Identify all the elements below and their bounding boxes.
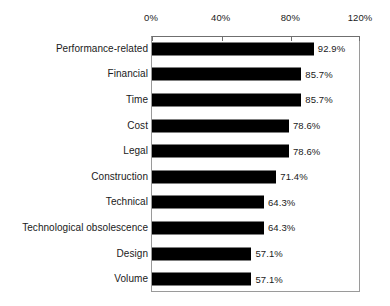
x-axis-tick-label: 80% [281, 12, 300, 24]
bar [152, 247, 251, 260]
bar [152, 93, 301, 106]
bar-value-label: 78.6% [293, 145, 320, 157]
category-label: Cost [0, 120, 148, 132]
x-axis-tick-label: 40% [211, 12, 230, 24]
x-axis-tick-label: 0% [144, 12, 158, 24]
bar-row: Construction71.4% [0, 164, 390, 190]
category-label: Financial [0, 68, 148, 80]
bar-value-label: 64.3% [268, 196, 295, 208]
category-label: Design [0, 248, 148, 260]
category-label: Volume [0, 273, 148, 285]
bar-row: Financial85.7% [0, 62, 390, 88]
bar-row: Performance-related92.9% [0, 36, 390, 62]
bar-with-value: 85.7% [152, 93, 333, 106]
bar-row: Technological obsolescence64.3% [0, 215, 390, 241]
bar [152, 221, 264, 234]
bar-value-label: 57.1% [255, 248, 282, 260]
bar [152, 196, 264, 209]
bar-with-value: 57.1% [152, 247, 283, 260]
bar [152, 68, 301, 81]
bar-with-value: 57.1% [152, 273, 283, 286]
bar [152, 170, 276, 183]
bar-value-label: 71.4% [280, 171, 307, 183]
x-axis-tick-labels: 0%40%80%120% [151, 12, 360, 26]
bar [152, 119, 289, 132]
category-label: Technical [0, 196, 148, 208]
bar-value-label: 57.1% [255, 273, 282, 285]
bar-with-value: 64.3% [152, 221, 295, 234]
category-label: Time [0, 94, 148, 106]
bar-with-value: 78.6% [152, 145, 320, 158]
bar-value-label: 85.7% [305, 94, 332, 106]
bar-with-value: 71.4% [152, 170, 308, 183]
bar-value-label: 92.9% [318, 43, 345, 55]
bar-value-label: 64.3% [268, 222, 295, 234]
category-label: Performance-related [0, 43, 148, 55]
bar [152, 42, 314, 55]
bar-with-value: 92.9% [152, 42, 345, 55]
bar-row: Cost78.6% [0, 113, 390, 139]
bar-with-value: 78.6% [152, 119, 320, 132]
x-axis-tick-label: 120% [348, 12, 373, 24]
bar-chart: 0%40%80%120% Performance-related92.9%Fin… [0, 0, 390, 306]
bar-row: Legal78.6% [0, 138, 390, 164]
category-label: Construction [0, 171, 148, 183]
category-label: Technological obsolescence [0, 222, 148, 234]
bar-rows: Performance-related92.9%Financial85.7%Ti… [0, 36, 390, 292]
bar [152, 145, 289, 158]
bar-row: Technical64.3% [0, 190, 390, 216]
bar-with-value: 85.7% [152, 68, 333, 81]
bar [152, 273, 251, 286]
bar-with-value: 64.3% [152, 196, 295, 209]
bar-row: Time85.7% [0, 87, 390, 113]
bar-row: Design57.1% [0, 241, 390, 267]
bar-row: Volume57.1% [0, 266, 390, 292]
bar-value-label: 78.6% [293, 120, 320, 132]
category-label: Legal [0, 145, 148, 157]
bar-value-label: 85.7% [305, 68, 332, 80]
